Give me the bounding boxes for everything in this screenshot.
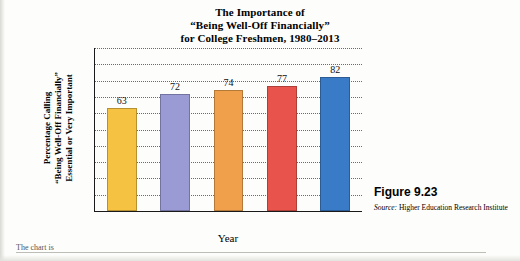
bar-value-label: 77: [277, 73, 287, 84]
page-edge-shadow-left: [0, 0, 5, 261]
figure-label: Figure 9.23: [374, 185, 437, 199]
plot-area: 10%20%30%40%50%60%70%80%90%100%631980721…: [94, 48, 362, 212]
bar-value-label: 72: [170, 81, 180, 92]
bar-2013: 822013: [320, 77, 350, 211]
bar-1980: 631980: [107, 108, 137, 211]
bar-2000: 742000: [214, 90, 244, 211]
bar-1990: 721990: [160, 94, 190, 211]
gridline: [95, 64, 362, 65]
gridline: [95, 48, 362, 49]
x-axis-title: Year: [94, 232, 362, 244]
figure-source-prefix: Source:: [374, 203, 397, 212]
bar-2010: 772010: [267, 86, 297, 212]
bar-value-label: 74: [223, 77, 233, 88]
plot-inner: 10%20%30%40%50%60%70%80%90%100%631980721…: [95, 48, 362, 211]
page-edge-shadow-bottom: [0, 255, 520, 261]
bar-value-label: 82: [330, 64, 340, 75]
bar-value-label: 63: [117, 95, 127, 106]
chart-title-line-3: for College Freshmen, 1980–2013: [95, 32, 425, 45]
figure-source-text: Higher Education Research Institute: [397, 203, 508, 212]
figure-source: Source: Higher Education Research Instit…: [374, 203, 518, 213]
chart-title: The Importance of “Being Well-Off Financ…: [95, 6, 425, 45]
y-axis-title-line-3: Essential or Very Important: [64, 48, 80, 208]
page-rule: [16, 252, 486, 253]
chart-title-line-2: “Being Well-Off Financially”: [95, 19, 425, 32]
chart-title-line-1: The Importance of: [95, 6, 425, 19]
page-body-text: The chart is: [16, 243, 54, 252]
figure-page: The Importance of “Being Well-Off Financ…: [0, 0, 520, 261]
